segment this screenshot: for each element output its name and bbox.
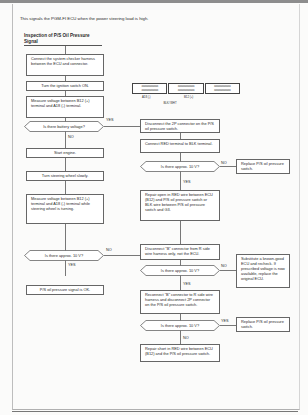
no-label: NO [221,264,227,268]
no-connector-line [220,270,236,271]
result-signal-ok: P/S oil pressure signal is OK. [26,285,104,295]
action-substitute-ecu: Substitute a known-good ECU and recheck.… [236,254,290,288]
connector-diagram: oooooooooooooooooooooo ooooooooooooooooo… [132,83,240,94]
step-measure-voltage: Measure voltage between B12 (+) terminal… [26,96,104,118]
action-repair-open: Repair open in RED wire between ECU (B12… [140,190,220,221]
step-disconnect-2p: Disconnect the 2P connector on the P/S o… [140,119,220,133]
connector-block-b: oooooooooooooooooooooo [168,83,203,94]
section-heading: Inspection of P/S Oil Pressure Signal [24,33,104,44]
decision-approx-10v-r2: Is there approx. 10 V? [140,265,220,276]
yes-label: YES [68,263,76,267]
action-replace-switch-2: Replace P/S oil pressure switch. [236,317,290,332]
no-label: NO [68,135,74,139]
step-disconnect-b: Disconnect "B" connector from R side wir… [140,244,220,260]
no-label: NO [221,161,227,165]
step-ignition-on: Turn the ignition switch ON. [26,81,104,91]
yes-label: YES [221,319,229,323]
yes-label: YES [183,282,191,286]
step-measure-while-turning: Measure voltage between B12 (+) terminal… [26,194,104,224]
step-reconnect-b: Reconnect "B" connector to R side wire h… [140,290,220,314]
heading-rule [24,45,102,46]
page-top-border [0,0,308,3]
connector-block-c: oooooooooooooooooooooo [205,83,240,94]
action-repair-short: Repair short in RED wire between ECU (B1… [140,344,220,362]
page-bottom-rule [12,411,298,412]
step-start-engine: Start engine. [26,148,104,158]
intro-text: This signals the PGM-FI ECU when the pow… [20,16,149,21]
no-label: NO [183,336,189,340]
yes-label: YES [183,180,191,184]
step-connect-checker: Connect the system checker harness betwe… [26,54,104,76]
no-connector-line [104,255,140,256]
no-label: NO [106,248,112,252]
decision-approx-10v-r1: Is there approx. 10 V? [140,161,220,172]
decision-approx-10v-r3: Is there approx. 10 V? [140,320,220,331]
step-connect-red-blk: Connect RED terminal to BLK terminal. [140,139,220,153]
pin-a18-label: A18 (-) [142,95,151,99]
yes-connector-line [220,325,236,326]
connector-block-a: oooooooooooooooooooooo [132,83,167,94]
no-connector-line [220,166,236,167]
wire-color-label: BLK/ WHT [163,101,177,105]
decision-battery-voltage: Is there battery voltage? [24,121,104,132]
step-turn-wheel: Turn steering wheel slowly. [26,171,104,181]
decision-approx-10v-left: Is there approx. 10 V? [24,250,104,261]
pin-b12-label: B12 (+) [184,95,193,99]
yes-connector-line [104,126,140,127]
action-replace-switch-1: Replace P/S oil pressure switch. [236,159,290,174]
yes-label: YES [106,118,114,122]
